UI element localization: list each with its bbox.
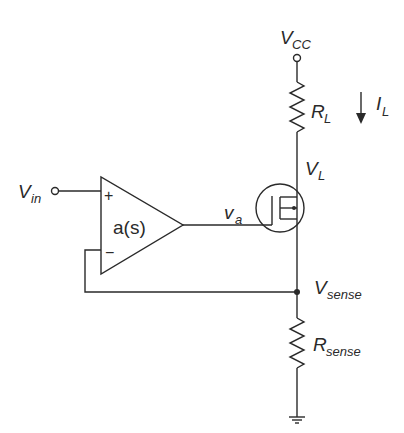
opamp-minus-sign: − [105, 244, 114, 261]
va-label: v a [224, 202, 242, 227]
svg-text:L: L [318, 168, 325, 183]
svg-text:R: R [311, 101, 325, 122]
vsense-label: V sense [314, 277, 362, 302]
svg-text:sense: sense [327, 287, 362, 302]
rsense-resistor [290, 318, 304, 368]
rl-label: R L [311, 101, 331, 126]
vin-terminal [52, 188, 59, 195]
feedback-wire [85, 250, 297, 292]
opamp-gain-label: a(s) [113, 217, 146, 238]
svg-text:R: R [313, 334, 327, 355]
il-label: I L [376, 93, 389, 119]
ground-icon [289, 417, 305, 423]
vl-label: V L [305, 158, 325, 183]
svg-text:CC: CC [292, 37, 311, 52]
svg-text:v: v [224, 202, 235, 223]
opamp-plus-sign: + [104, 187, 113, 204]
rl-resistor [290, 82, 304, 132]
circuit-diagram: V CC R L I L V L v [0, 0, 404, 433]
svg-text:sense: sense [326, 344, 361, 359]
vcc-label: V CC [280, 27, 311, 52]
rsense-label: R sense [313, 334, 361, 359]
vcc-terminal [294, 55, 301, 62]
svg-text:a: a [235, 212, 242, 227]
svg-text:L: L [324, 111, 331, 126]
svg-text:L: L [382, 104, 389, 119]
vin-label: V in [18, 181, 41, 206]
il-arrow-icon [356, 92, 366, 124]
svg-text:in: in [31, 191, 41, 206]
